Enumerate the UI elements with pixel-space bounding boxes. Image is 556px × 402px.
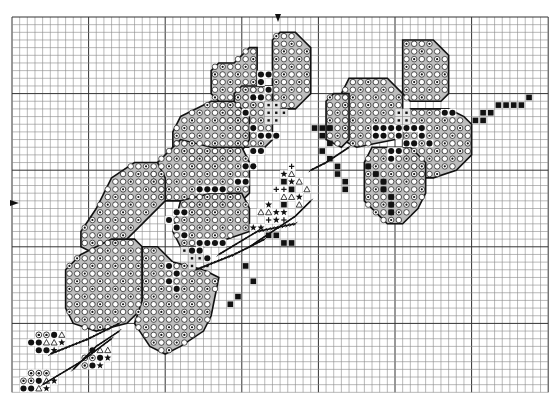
- center-column-arrow-icon: [275, 14, 281, 22]
- stitch-grid: [0, 0, 556, 402]
- center-row-arrow-icon: [10, 200, 19, 206]
- right-top-petal: [403, 40, 449, 101]
